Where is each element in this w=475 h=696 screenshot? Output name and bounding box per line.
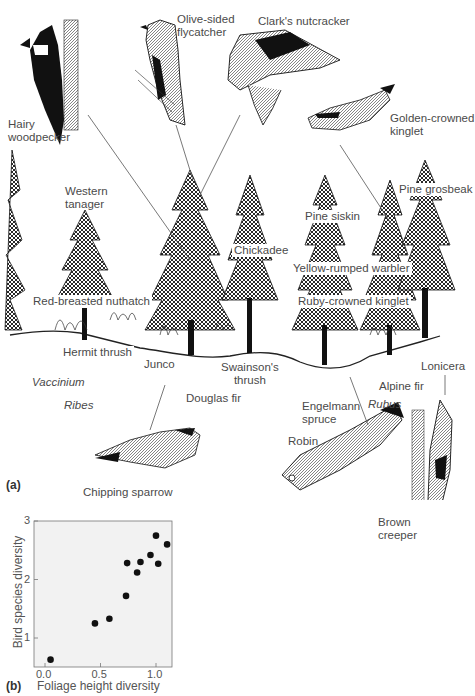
chipping-sparrow-icon	[95, 428, 200, 468]
label-hairy-woodpecker: Hairywoodpecker	[8, 118, 70, 144]
label-rubus: Rubus	[368, 398, 401, 411]
label-western-tanager: Westerntanager	[65, 185, 108, 211]
label-ribes: Ribes	[64, 399, 93, 412]
label-chipping-sparrow: Chipping sparrow	[83, 486, 173, 499]
label-douglas-fir: Douglas fir	[186, 392, 241, 405]
golden-crowned-kinglet-icon	[308, 84, 395, 130]
data-point	[153, 532, 160, 539]
label-red-breasted-nuthatch: Red-breasted nuthatch	[31, 295, 152, 308]
label-olive-sided-flycatcher: Olive-sidedflycatcher	[177, 13, 235, 39]
label-pine-siskin: Pine siskin	[303, 210, 362, 223]
x-axis-title: Foliage height diversity	[37, 679, 160, 693]
label-golden-crowned-kinglet: Golden-crownedkinglet	[390, 112, 474, 138]
label-yellow-rumped-warbler: Yellow-rumped warbler	[291, 262, 412, 275]
western-tanager-tree-icon	[56, 210, 114, 340]
label-pine-grosbeak: Pine grosbeak	[397, 183, 475, 196]
data-point	[155, 560, 162, 567]
label-robin: Robin	[288, 435, 318, 448]
label-alpine-fir: Alpine fir	[379, 380, 424, 393]
y-axis-title: Bird species diversity	[11, 522, 25, 662]
data-point	[92, 620, 99, 627]
left-edge-tree-icon	[5, 150, 25, 330]
data-point	[123, 593, 130, 600]
label-lonicera: Lonicera	[421, 360, 465, 373]
label-chickadee: Chickadee	[232, 244, 290, 257]
label-hermit-thrush: Hermit thrush	[61, 346, 134, 359]
label-brown-creeper: Browncreeper	[378, 516, 417, 542]
label-swainsons-thrush: Swainson'sthrush	[219, 361, 281, 387]
brown-creeper-icon	[412, 400, 452, 500]
douglas-fir-tree-icon	[145, 170, 235, 355]
label-junco: Junco	[142, 358, 177, 371]
data-point	[106, 615, 113, 622]
data-point	[124, 560, 131, 567]
data-point	[47, 656, 54, 663]
scatter-plot: 0.00.51.0123 Foliage height diversity Bi…	[0, 505, 200, 696]
panel-b-tag: (b)	[6, 679, 21, 693]
label-ruby-crowned-kinglet: Ruby-crowned kinglet	[296, 295, 411, 308]
label-vaccinium: Vaccinium	[32, 376, 85, 389]
data-point	[164, 541, 171, 548]
label-engelmann-spruce: Engelmannspruce	[302, 400, 360, 426]
data-point	[134, 569, 141, 576]
panel-a-tag: (a)	[6, 478, 21, 492]
label-clarks-nutcracker: Clark's nutcracker	[258, 15, 350, 28]
data-point	[137, 559, 144, 566]
data-point	[147, 552, 154, 559]
plot-area	[34, 521, 172, 667]
